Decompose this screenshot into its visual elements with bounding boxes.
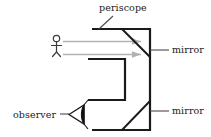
observer-eye	[69, 100, 88, 129]
label-periscope: periscope	[99, 3, 147, 13]
light-rays	[63, 38, 141, 58]
stick-figure-leg-right	[57, 52, 61, 57]
stick-figure-head	[53, 35, 59, 41]
mirror-bottom-diagonal	[122, 101, 150, 130]
periscope-inner-wall	[88, 59, 125, 100]
periscope-diagram: periscope mirror mirror observer	[0, 0, 211, 137]
label-observer: observer	[13, 110, 56, 120]
label-mirror-bottom: mirror	[172, 106, 204, 116]
mirrors	[122, 29, 150, 130]
eye-pupil	[81, 105, 84, 124]
ray-lower-arrowhead	[132, 51, 141, 58]
eye-lash-upper	[84, 100, 88, 105]
inner-bracket-path	[88, 59, 125, 100]
leader-periscope	[99, 16, 113, 29]
stick-figure-leg-left	[53, 52, 57, 57]
eye-lash-lower	[84, 124, 88, 129]
object-stick-figure	[52, 35, 62, 56]
periscope-body	[92, 28, 150, 131]
label-mirror-top: mirror	[172, 45, 204, 55]
